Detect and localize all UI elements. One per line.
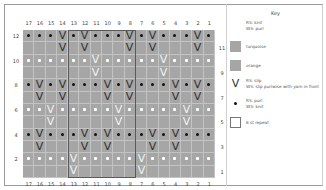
purl-dot-icon xyxy=(72,34,75,37)
white-dot-icon xyxy=(185,59,188,62)
column-number: 7 xyxy=(136,20,147,26)
purl-dot-icon xyxy=(61,133,64,136)
chart-cell xyxy=(91,104,102,116)
chart-cell xyxy=(204,42,215,54)
purl-dot-icon xyxy=(27,133,30,136)
white-dot-icon xyxy=(128,59,131,62)
slip-v-icon: V xyxy=(70,166,78,176)
slip-v-icon: V xyxy=(36,92,44,102)
white-dot-icon xyxy=(38,157,41,160)
purl-dot-icon xyxy=(27,83,30,86)
repeat-box-icon xyxy=(230,117,241,128)
chart-cell xyxy=(79,104,90,116)
column-number: 10 xyxy=(102,181,113,187)
white-dot-icon xyxy=(106,108,109,111)
slip-v-icon: V xyxy=(137,166,145,176)
slip-v-icon: V xyxy=(47,105,55,115)
chart-cell: V xyxy=(34,141,45,153)
column-number: 5 xyxy=(159,181,170,187)
chart-cell xyxy=(113,92,124,104)
chart-cell: V xyxy=(147,30,158,42)
column-number: 4 xyxy=(170,20,181,26)
chart-cell xyxy=(192,129,203,141)
purl-dot-icon xyxy=(162,34,165,37)
chart-cell xyxy=(147,67,158,79)
key-label: 6 st repeat xyxy=(246,120,269,126)
chart-cell xyxy=(23,79,34,91)
white-dot-icon xyxy=(207,157,210,160)
chart-cell xyxy=(102,67,113,79)
column-number: 12 xyxy=(79,20,90,26)
chart-cell xyxy=(46,67,57,79)
chart-cell xyxy=(102,166,113,178)
chart-cell xyxy=(136,92,147,104)
slip-v-icon: V xyxy=(126,43,134,53)
purl-dot-icon xyxy=(94,83,97,86)
column-number: 1 xyxy=(204,181,215,187)
chart-cell: V xyxy=(113,116,124,128)
chart-cell xyxy=(57,67,68,79)
chart-cell xyxy=(46,166,57,178)
key-label: WS: slip purlwise with yarn in front xyxy=(246,84,319,90)
chart-cell xyxy=(125,141,136,153)
slip-v-icon: V xyxy=(36,142,44,152)
column-number: 3 xyxy=(181,181,192,187)
chart-cell xyxy=(147,92,158,104)
chart-cell xyxy=(57,153,68,165)
white-dot-icon xyxy=(207,108,210,111)
chart-cell xyxy=(125,104,136,116)
chart-cell: V xyxy=(181,104,192,116)
column-number: 5 xyxy=(159,20,170,26)
chart-cell: V xyxy=(57,79,68,91)
chart-cell: V xyxy=(79,129,90,141)
column-number: 7 xyxy=(136,181,147,187)
chart-cell: V xyxy=(34,92,45,104)
slip-v-icon: V xyxy=(115,117,123,127)
white-dot-icon xyxy=(151,157,154,160)
slip-v-icon: V xyxy=(149,31,157,41)
chart-cell: V xyxy=(68,166,79,178)
white-dot-icon xyxy=(27,59,30,62)
chart-cell xyxy=(181,166,192,178)
key-label: WS: purl xyxy=(246,26,264,32)
white-dot-icon xyxy=(38,108,41,111)
chart-cell: V xyxy=(79,42,90,54)
slip-v-icon: V xyxy=(58,43,66,53)
slip-v-icon: V xyxy=(92,68,100,78)
column-number: 2 xyxy=(192,181,203,187)
chart-cell xyxy=(192,55,203,67)
turquoise-swatch-icon xyxy=(230,41,241,52)
chart-cell xyxy=(34,104,45,116)
white-dot-icon xyxy=(49,59,52,62)
chart-cell xyxy=(113,166,124,178)
white-dot-icon xyxy=(196,59,199,62)
white-dot-icon xyxy=(27,157,30,160)
slip-v-icon: V xyxy=(149,129,157,139)
chart-cell xyxy=(204,153,215,165)
chart-cell xyxy=(125,116,136,128)
chart-cell xyxy=(79,153,90,165)
column-number: 11 xyxy=(91,181,102,187)
chart-cell xyxy=(57,116,68,128)
chart-cell xyxy=(57,104,68,116)
chart-cell xyxy=(91,42,102,54)
chart-cell: V xyxy=(57,42,68,54)
chart-cell xyxy=(159,104,170,116)
slip-v-icon: V xyxy=(149,43,157,53)
key-panel: Key RS: knitWS: purl turquoise orange V … xyxy=(226,4,324,186)
chart-cell: V xyxy=(159,55,170,67)
chart-cell: V xyxy=(91,55,102,67)
column-number: 6 xyxy=(147,181,158,187)
purl-dot-icon xyxy=(83,83,86,86)
chart-cell xyxy=(57,55,68,67)
column-number: 6 xyxy=(147,20,158,26)
purl-dot-icon xyxy=(94,34,97,37)
white-dot-icon xyxy=(162,157,165,160)
column-numbers-bottom: 1716151413121110987654321 xyxy=(23,181,215,187)
column-number: 15 xyxy=(46,20,57,26)
chart-cell xyxy=(192,116,203,128)
chart-cell: V xyxy=(125,42,136,54)
column-number: 1 xyxy=(204,20,215,26)
chart-cell xyxy=(192,104,203,116)
chart-cell xyxy=(79,166,90,178)
